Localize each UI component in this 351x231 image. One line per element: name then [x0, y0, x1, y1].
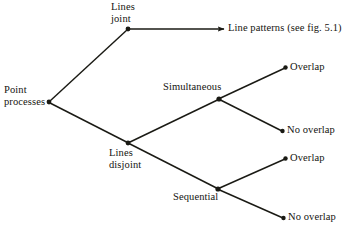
- node-dot-no-overlap-simultaneous: [280, 129, 284, 133]
- node-label-overlap-sequential: Overlap: [290, 152, 325, 164]
- node-label-lines-disjoint: Lines disjoint: [109, 147, 141, 170]
- node-dot-no-overlap-sequential: [281, 216, 285, 220]
- edge-sequential-to-overlap: [219, 159, 286, 189]
- node-label-point-processes: Point processes: [4, 84, 45, 107]
- node-label-sequential: Sequential: [173, 191, 218, 203]
- node-label-line-patterns: Line patterns (see fig. 5.1): [228, 22, 342, 34]
- node-dot-simultaneous: [216, 96, 221, 101]
- edge-simultaneous-to-no-overlap: [220, 100, 283, 132]
- node-dot-overlap-sequential: [283, 156, 287, 160]
- edge-simultaneous-to-overlap: [220, 68, 286, 99]
- node-label-simultaneous: Simultaneous: [163, 81, 221, 93]
- edge-root-to-lines-joint: [50, 30, 128, 102]
- edge-root-to-lines-disjoint: [50, 103, 128, 143]
- node-dot-lines-joint: [126, 27, 131, 32]
- node-label-no-overlap-simultaneous: No overlap: [287, 124, 335, 136]
- diagram-canvas: Point processes Lines joint Lines disjoi…: [0, 0, 351, 231]
- node-label-lines-joint: Lines joint: [111, 1, 135, 24]
- edge-lines-disjoint-to-sequential: [129, 144, 218, 189]
- node-label-no-overlap-sequential: No overlap: [288, 211, 336, 223]
- node-dot-root: [47, 100, 52, 105]
- node-dot-overlap-simultaneous: [283, 65, 287, 69]
- node-dot-lines-disjoint: [126, 141, 131, 146]
- node-label-overlap-simultaneous: Overlap: [290, 61, 325, 73]
- edge-lines-disjoint-to-simultaneous: [129, 100, 219, 143]
- edge-sequential-to-no-overlap: [219, 190, 284, 219]
